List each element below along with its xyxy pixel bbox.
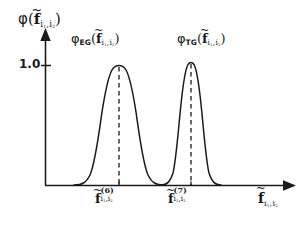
curve-label-eg-phi: φ <box>71 31 80 46</box>
x-tick-6-scripts: (6) i1,i2 <box>101 190 123 203</box>
curve-label-eg-subscript: EG <box>80 38 91 47</box>
x-tick-6-subscript: i1,i2 <box>101 195 113 204</box>
y-axis-arrowhead <box>40 28 50 41</box>
tilde-accent-icon: ~ <box>256 183 266 195</box>
curve-label-tg-paren-close: ) <box>221 31 226 46</box>
tilde-accent-icon: ~ <box>31 4 42 17</box>
x-axis-label-subscript: i1,i2 <box>264 198 278 208</box>
y-axis-label-paren-close: ) <box>55 10 61 28</box>
curve-label-phi-eg: φEG(~fi1,i2) <box>71 32 120 48</box>
y-axis-label-subscript: i1,i2 <box>40 19 55 29</box>
x-axis-label: ~fi1,i2 <box>258 191 278 208</box>
x-axis-label-var: ~f <box>258 191 264 205</box>
x-axis-arrowhead <box>283 180 296 190</box>
x-axis-tick-label-6: ~f (6) i1,i2 <box>95 190 123 205</box>
y-axis-tick-label-1: 1.0 <box>19 58 40 70</box>
figure-container: φ(~fi1,i2) 1.0 φEG(~fi1,i2) φTG(~fi1,i2)… <box>0 0 303 226</box>
y-axis-label-var: ~f <box>34 12 40 27</box>
curve-label-eg-var: ~f <box>96 32 102 45</box>
x-tick-7-superscript: (7) <box>174 186 187 194</box>
y-axis-label-phi: φ <box>18 10 28 28</box>
x-tick-7-scripts: (7) i1,i2 <box>174 190 196 203</box>
curve-label-tg-var-subscript: i1,i2 <box>208 38 221 47</box>
x-tick-7-subscript: i1,i2 <box>174 195 186 204</box>
tilde-accent-icon: ~ <box>94 25 103 36</box>
curve-label-eg-paren-close: ) <box>115 31 120 46</box>
x-axis-tick-label-7: ~f (7) i1,i2 <box>168 190 196 205</box>
x-tick-6-superscript: (6) <box>101 186 114 194</box>
curve-label-eg-var-subscript: i1,i2 <box>102 38 115 47</box>
y-axis-label: φ(~fi1,i2) <box>18 12 61 29</box>
curve-label-phi-tg: φTG(~fi1,i2) <box>177 32 226 48</box>
tilde-accent-icon: ~ <box>200 25 209 36</box>
curve-label-tg-subscript: TG <box>186 38 197 47</box>
curve-label-tg-phi: φ <box>177 31 186 46</box>
curve-label-tg-var: ~f <box>202 32 208 45</box>
